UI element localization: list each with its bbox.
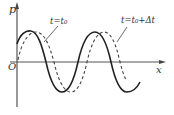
t0-leader-line (44, 26, 58, 42)
wave-diagram: p O x t=t₀ t=t₀+Δt (0, 0, 174, 115)
wave-plot: p O x t=t₀ t=t₀+Δt (0, 0, 174, 115)
t0dt-leader-line (117, 27, 127, 42)
x-axis-label: x (156, 64, 162, 75)
origin-label: O (8, 61, 16, 72)
solid-wave-curve (17, 31, 140, 92)
y-axis-label: p (9, 3, 16, 16)
t0dt-label: t=t₀+Δt (121, 15, 156, 25)
t0-label: t=t₀ (50, 16, 68, 26)
